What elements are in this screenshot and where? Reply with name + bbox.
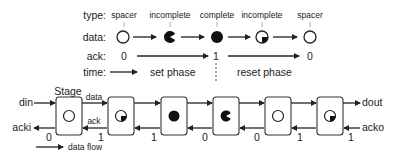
stage-6	[317, 97, 343, 135]
time-row-label: time:	[83, 66, 106, 78]
acko-label: acko	[362, 121, 384, 133]
ack-number: 1	[151, 131, 157, 143]
din-label: din	[19, 96, 33, 108]
set-phase-label: set phase	[150, 66, 196, 78]
stage-1	[56, 97, 82, 135]
acki-label: acki	[12, 121, 31, 133]
dout-label: dout	[362, 96, 383, 108]
empty-circle-icon	[304, 31, 316, 43]
type-row-label: type:	[83, 9, 106, 21]
filled-circle-icon	[169, 111, 180, 122]
type-ticks	[124, 22, 310, 27]
partial-circle-icon	[256, 31, 268, 43]
ack-number: 1	[297, 131, 303, 143]
ack-number: 0	[254, 131, 260, 143]
stage-3	[161, 97, 187, 135]
ack-value-end: 0	[307, 50, 313, 62]
ack-value-start: 0	[121, 50, 127, 62]
ack-value-mid: 1	[213, 50, 219, 62]
ack-wire-label: ack	[87, 116, 101, 126]
data-row-label: data:	[83, 31, 106, 43]
ack-number: 0	[202, 131, 208, 143]
ack-number: 0	[46, 131, 52, 143]
asynchronous-pipeline-diagram: type: data: ack: time: spacer incomplete…	[0, 0, 403, 154]
type-label-incomplete: incomplete	[149, 10, 190, 20]
empty-circle-icon	[117, 31, 129, 43]
type-label-complete: complete	[200, 10, 235, 20]
filled-circle-icon	[211, 31, 223, 43]
data-wire-label: data	[86, 92, 103, 102]
pacman-icon	[164, 31, 175, 43]
reset-phase-label: reset phase	[237, 66, 292, 78]
stage-2	[108, 97, 134, 135]
type-label-incomplete: incomplete	[241, 10, 282, 20]
type-label-spacer: spacer	[297, 10, 323, 20]
stage-5	[265, 97, 291, 135]
stage-4	[213, 97, 239, 135]
ack-row-label: ack:	[87, 50, 106, 62]
stage-label: Stage	[54, 85, 82, 97]
data-flow-label: data flow	[68, 142, 103, 152]
type-label-spacer: spacer	[111, 10, 137, 20]
ack-number: 1	[348, 131, 354, 143]
